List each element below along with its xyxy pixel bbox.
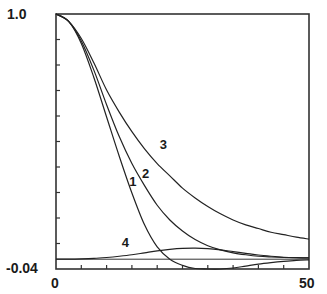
curve-label-3: 3 [160, 137, 167, 152]
curve-3 [56, 14, 309, 239]
curve-label-2: 2 [142, 166, 149, 181]
curve-2 [56, 14, 309, 258]
line-chart: 1234 1.0 -0.04 0 50 [0, 0, 327, 294]
x-tick-label-end: 50 [299, 275, 315, 291]
axis-ticks [56, 40, 284, 270]
data-curves [56, 14, 309, 269]
curve-labels: 1234 [122, 137, 167, 250]
x-tick-label-start: 0 [51, 275, 59, 291]
curve-label-1: 1 [129, 174, 136, 189]
curve-label-4: 4 [122, 235, 130, 250]
y-tick-label-bottom: -0.04 [6, 260, 38, 276]
y-tick-label-top: 1.0 [7, 6, 27, 22]
